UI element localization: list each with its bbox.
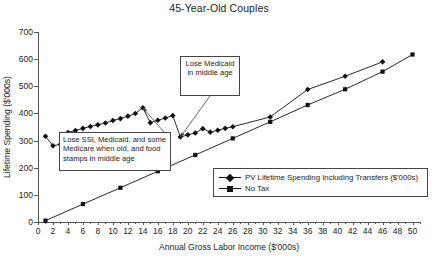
- x-tick: [128, 222, 129, 225]
- y-axis-title: Lifetime Spending ($'000s): [2, 76, 12, 178]
- x-tick: [308, 222, 309, 225]
- x-axis-title: Annual Gross Labor Income ($'000s): [159, 242, 299, 252]
- data-point: [43, 219, 47, 223]
- x-tick: [173, 222, 174, 225]
- y-tick-label: 400: [19, 108, 33, 118]
- x-minor-tick: [420, 222, 421, 224]
- data-point: [410, 52, 414, 56]
- data-point: [178, 134, 184, 140]
- x-minor-tick: [270, 222, 271, 224]
- legend-item-spending: PV Lifetime Spending Including Transfers…: [219, 172, 422, 183]
- x-tick-label: 24: [213, 226, 222, 236]
- x-minor-tick: [195, 222, 196, 224]
- x-tick-label: 22: [198, 226, 207, 236]
- x-minor-tick: [405, 222, 406, 224]
- x-tick: [278, 222, 279, 225]
- x-tick-label: 26: [228, 226, 237, 236]
- x-minor-tick: [90, 222, 91, 224]
- x-tick-label: 8: [96, 226, 101, 236]
- data-point: [268, 120, 272, 124]
- x-tick-label: 20: [183, 226, 192, 236]
- x-tick: [383, 222, 384, 225]
- x-tick: [113, 222, 114, 225]
- data-point: [163, 115, 169, 121]
- legend-label-spending: PV Lifetime Spending Including Transfers…: [245, 173, 418, 182]
- x-tick: [353, 222, 354, 225]
- data-point: [118, 186, 122, 190]
- x-tick: [323, 222, 324, 225]
- y-tick-label: 600: [19, 54, 33, 64]
- data-point: [88, 124, 94, 130]
- x-tick-label: 14: [138, 226, 147, 236]
- x-tick: [98, 222, 99, 225]
- data-point: [342, 73, 348, 79]
- y-tick-label: 200: [19, 163, 33, 173]
- data-point: [200, 126, 206, 132]
- x-minor-tick: [330, 222, 331, 224]
- data-point: [192, 130, 198, 136]
- x-tick-label: 2: [51, 226, 56, 236]
- data-point: [222, 126, 228, 132]
- data-point: [125, 113, 131, 119]
- x-tick-label: 38: [318, 226, 327, 236]
- x-minor-tick: [60, 222, 61, 224]
- x-tick: [38, 222, 39, 225]
- x-tick-label: 46: [378, 226, 387, 236]
- annotation-lose-medicaid: Lose Medicaid in middle age: [180, 56, 240, 96]
- x-minor-tick: [180, 222, 181, 224]
- x-tick: [263, 222, 264, 225]
- data-point: [118, 116, 124, 122]
- x-tick: [188, 222, 189, 225]
- x-tick: [158, 222, 159, 225]
- x-minor-tick: [75, 222, 76, 224]
- x-minor-tick: [315, 222, 316, 224]
- y-tick-label: 500: [19, 81, 33, 91]
- x-tick-label: 34: [288, 226, 297, 236]
- data-point: [155, 117, 161, 123]
- x-tick-label: 0: [36, 226, 41, 236]
- data-point: [207, 129, 213, 135]
- x-tick: [53, 222, 54, 225]
- x-tick-label: 10: [108, 226, 117, 236]
- data-point: [215, 127, 221, 133]
- x-axis-line: [38, 222, 420, 223]
- x-minor-tick: [150, 222, 151, 224]
- x-minor-tick: [135, 222, 136, 224]
- data-point: [95, 122, 101, 128]
- legend-marker-square-icon: [219, 184, 241, 194]
- x-tick: [413, 222, 414, 225]
- x-tick: [398, 222, 399, 225]
- data-point: [193, 153, 197, 157]
- data-point: [380, 59, 386, 65]
- data-point: [231, 136, 235, 140]
- x-tick-label: 4: [66, 226, 71, 236]
- x-minor-tick: [345, 222, 346, 224]
- x-minor-tick: [240, 222, 241, 224]
- x-tick-label: 42: [348, 226, 357, 236]
- data-point: [170, 113, 176, 119]
- x-tick-label: 30: [258, 226, 267, 236]
- x-tick-label: 36: [303, 226, 312, 236]
- x-minor-tick: [210, 222, 211, 224]
- y-tick-label: 100: [19, 190, 33, 200]
- data-point: [380, 70, 384, 74]
- x-tick-label: 18: [168, 226, 177, 236]
- x-tick: [248, 222, 249, 225]
- x-tick-label: 12: [123, 226, 132, 236]
- chart-root: 45-Year-Old Couples 01002003004005006007…: [0, 0, 438, 261]
- y-tick-label: 0: [28, 217, 33, 227]
- data-point: [81, 202, 85, 206]
- data-point: [185, 132, 191, 138]
- data-point: [306, 103, 310, 107]
- x-minor-tick: [390, 222, 391, 224]
- x-minor-tick: [375, 222, 376, 224]
- x-tick-label: 40: [333, 226, 342, 236]
- data-point: [103, 120, 109, 126]
- y-tick-label: 700: [19, 27, 33, 37]
- data-point: [148, 120, 154, 126]
- x-minor-tick: [300, 222, 301, 224]
- x-tick: [203, 222, 204, 225]
- x-minor-tick: [120, 222, 121, 224]
- data-point: [343, 87, 347, 91]
- x-tick-label: 28: [243, 226, 252, 236]
